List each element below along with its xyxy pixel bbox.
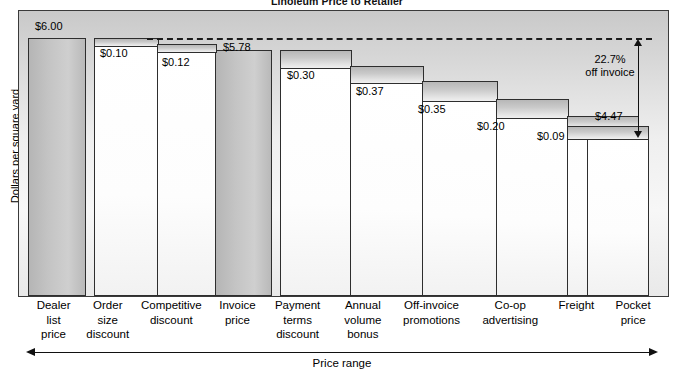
x-label-text: Payment terms discount bbox=[275, 299, 320, 340]
arrow-head-down-icon bbox=[634, 131, 642, 138]
discount-percent-caption: off invoice bbox=[585, 66, 634, 78]
value-label-off-invoice-promotions: $0.35 bbox=[418, 103, 446, 115]
bar-coop-advertising-column bbox=[496, 116, 569, 296]
discount-percent-value: 22.7% bbox=[594, 53, 625, 65]
value-label-payment-terms-discount: $0.30 bbox=[287, 69, 315, 81]
x-label-text: Order size discount bbox=[86, 299, 129, 340]
x-label-text: Invoice price bbox=[219, 299, 255, 326]
bar-annual-volume-column bbox=[350, 81, 424, 296]
step-coop-advertising bbox=[496, 99, 569, 119]
x-label-freight: Freight bbox=[547, 298, 606, 313]
x-label-coop-advertising: Co-op advertising bbox=[469, 298, 552, 327]
x-label-off-invoice-promotions: Off-invoice promotions bbox=[389, 298, 474, 327]
value-label-dealer-list-price: $6.00 bbox=[35, 20, 63, 32]
x-axis-categories: Dealer list price Order size discount Co… bbox=[18, 298, 667, 346]
x-label-text: Off-invoice promotions bbox=[403, 299, 460, 326]
chart-title: Linoleum Price to Retailer bbox=[0, 0, 674, 5]
step-payment-terms-discount bbox=[280, 50, 352, 69]
value-label-annual-volume-bonus: $0.37 bbox=[356, 85, 384, 97]
value-label-coop-advertising: $0.20 bbox=[477, 120, 505, 132]
plot-area: $6.00 $0.10 $0.12 $5.78 $0.30 $0.37 $0.3… bbox=[18, 10, 669, 297]
price-range-arrow: Price range bbox=[26, 348, 658, 372]
x-label-text: Pocket price bbox=[616, 299, 651, 326]
value-label-order-size-discount: $0.10 bbox=[100, 47, 128, 59]
x-label-text: Annual volume bonus bbox=[344, 299, 381, 340]
x-label-payment-terms-discount: Payment terms discount bbox=[260, 298, 335, 342]
price-range-label: Price range bbox=[26, 357, 658, 369]
arrow-head-right-icon bbox=[649, 348, 658, 356]
x-label-text: Freight bbox=[558, 299, 594, 311]
invoice-to-pocket-arrow bbox=[634, 39, 643, 138]
bar-invoice-price bbox=[215, 50, 272, 296]
arrow-stem bbox=[638, 45, 639, 132]
x-label-pocket-price: Pocket price bbox=[601, 298, 665, 327]
x-label-text: Competitive discount bbox=[141, 299, 202, 326]
range-line bbox=[34, 352, 650, 353]
step-annual-volume-bonus bbox=[350, 66, 424, 84]
waterfall-chart: Linoleum Price to Retailer Dollars per s… bbox=[0, 0, 674, 374]
value-label-invoice-price: $5.78 bbox=[223, 41, 251, 53]
value-label-pocket-price: $4.47 bbox=[595, 110, 623, 122]
bar-order-size-column bbox=[94, 44, 159, 296]
bar-pocket-price bbox=[587, 137, 649, 296]
x-label-text: Dealer list price bbox=[37, 299, 71, 340]
bar-competitive-column bbox=[157, 50, 217, 296]
x-label-text: Co-op advertising bbox=[482, 299, 538, 326]
bar-dealer-list-price bbox=[28, 38, 86, 296]
x-label-annual-volume-bonus: Annual volume bonus bbox=[330, 298, 396, 342]
value-label-competitive-discount: $0.12 bbox=[162, 56, 190, 68]
bar-payment-terms-column bbox=[280, 66, 352, 296]
x-label-competitive-discount: Competitive discount bbox=[130, 298, 213, 327]
value-label-freight: $0.09 bbox=[537, 130, 565, 142]
invoice-reference-line bbox=[147, 38, 652, 40]
step-competitive-discount bbox=[157, 44, 217, 53]
step-off-invoice-promotions bbox=[422, 81, 498, 102]
